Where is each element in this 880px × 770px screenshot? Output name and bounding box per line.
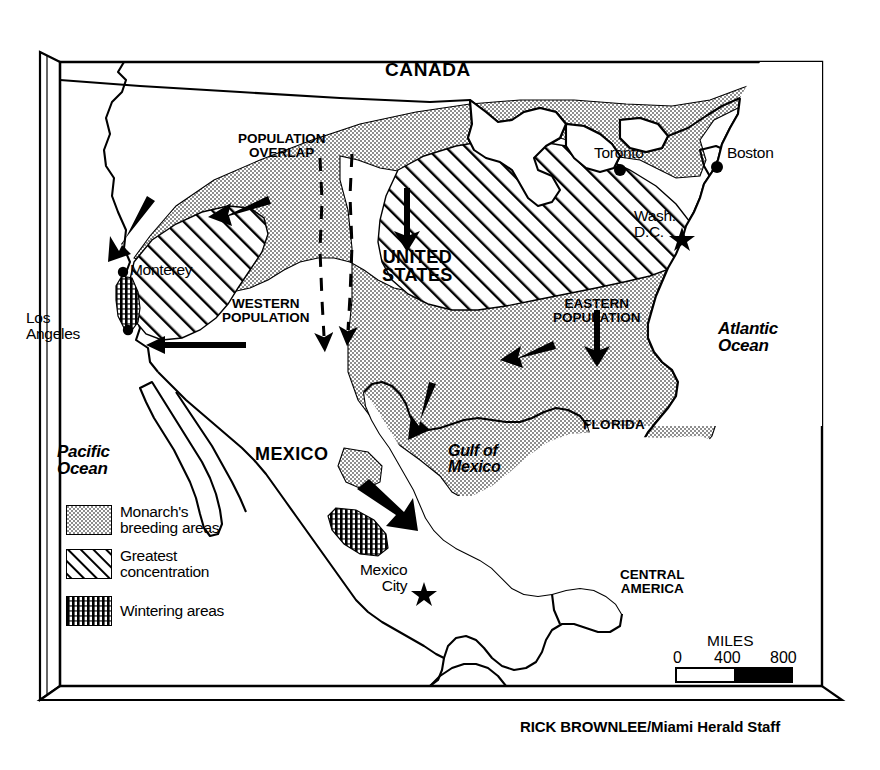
country-label-mexico: MEXICO <box>255 445 328 463</box>
country-label-united-states: UNITED STATES <box>382 248 453 285</box>
scale-tick-0: 0 <box>673 650 682 666</box>
legend-label-breeding: Monarch's breeding areas <box>120 504 219 537</box>
city-dot-toronto <box>614 164 626 176</box>
legend-swatch-breeding <box>66 505 112 535</box>
city-label-toronto: Toronto <box>594 145 644 161</box>
region-label-western-population: WESTERN POPULATION <box>222 297 310 325</box>
scale-units-label: MILES <box>707 633 754 649</box>
city-label-monterey: Monterey <box>130 262 192 278</box>
ocean-label-pacific: Pacific Ocean <box>57 443 110 478</box>
region-label-central-america: CENTRAL AMERICA <box>620 568 685 596</box>
city-dot-los-angeles <box>123 325 133 335</box>
ocean-label-atlantic: Atlantic Ocean <box>718 320 778 355</box>
city-dot-boston <box>711 161 723 173</box>
city-label-mexico-city: Mexico City <box>360 562 407 594</box>
city-label-los-angeles: Los Angeles <box>26 310 80 342</box>
map-canvas <box>0 0 880 770</box>
region-label-eastern-population: EASTERN POPULATION <box>553 297 641 325</box>
legend-swatch-concentration <box>66 549 112 579</box>
country-label-canada: CANADA <box>385 60 471 79</box>
scale-tick-400: 400 <box>714 650 741 666</box>
region-label-population-overlap: POPULATION OVERLAP <box>238 132 326 160</box>
credit-line: RICK BROWNLEE/Miami Herald Staff <box>520 719 780 734</box>
legend-swatch-wintering <box>66 596 112 626</box>
scale-tick-800: 800 <box>770 650 797 666</box>
legend-label-concentration: Greatest concentration <box>120 548 209 581</box>
scale-bar <box>676 668 792 682</box>
city-label-washington-dc: Wash. D.C. <box>634 208 676 240</box>
ocean-label-gulf-of-mexico: Gulf of Mexico <box>448 443 500 476</box>
city-dot-monterey <box>118 267 128 277</box>
city-label-boston: Boston <box>727 145 773 161</box>
map-graphic: CANADA UNITED STATES MEXICO CENTRAL AMER… <box>0 0 880 770</box>
state-label-florida: FLORIDA <box>583 418 645 432</box>
legend-label-wintering: Wintering areas <box>120 603 224 619</box>
